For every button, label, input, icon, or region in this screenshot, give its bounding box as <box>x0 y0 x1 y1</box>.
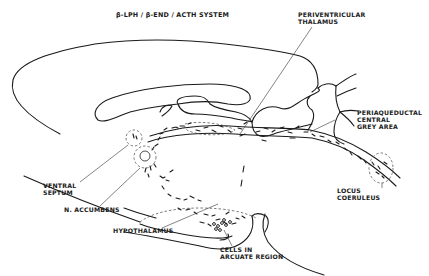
midbrain-outline <box>252 88 319 122</box>
leader-n-accumbens <box>100 168 140 206</box>
label-arcuate: CELLS IN ARCUATE REGION <box>220 246 283 260</box>
leader-periventricular <box>240 27 312 134</box>
label-n-accumbens: N. ACCUMBENS <box>64 206 120 213</box>
ventral-outline <box>24 176 140 222</box>
brainstem-lower <box>148 133 396 186</box>
label-locus-coeruleus: LOCUS COERULEUS <box>337 187 380 201</box>
thalamus-outline <box>177 96 252 122</box>
cerebellum-folia <box>336 74 356 86</box>
corpus-callosum <box>95 84 250 121</box>
label-periaqueductal: PERIAQUEDUCTAL CENTRAL GREY AREA <box>357 109 422 130</box>
hypothalamus-region <box>140 208 256 222</box>
label-ventral-septum: VENTRAL SEPTUM <box>43 182 76 196</box>
brain-sagittal-diagram <box>0 0 429 276</box>
arcuate-cells <box>213 219 232 232</box>
leader-ventral-septum <box>80 145 128 182</box>
leader-hypothalamus <box>162 204 218 228</box>
pituitary-outline <box>252 214 268 232</box>
leader-periaqueductal <box>310 120 335 132</box>
label-periventricular-thalamus: PERIVENTRICULAR THALAMUS <box>298 11 365 25</box>
label-hypothalamus: HYPOTHALAMUS <box>113 227 173 234</box>
